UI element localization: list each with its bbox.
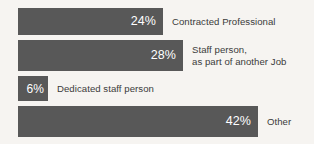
- bar-value-label: 24%: [131, 15, 163, 28]
- bar-row: 28% Staff person, as part of another Job: [0, 40, 314, 71]
- bar-row: 6% Dedicated staff person: [0, 76, 314, 101]
- bar-category-label: Other: [258, 116, 291, 127]
- bar-segment-dedicated-staff-person: 6%: [18, 76, 48, 101]
- bar-category-label: Staff person, as part of another Job: [183, 44, 286, 66]
- bar-category-label: Contracted Professional: [163, 16, 276, 27]
- bar-category-label: Dedicated staff person: [48, 83, 154, 94]
- bar-chart: 24% Contracted Professional 28% Staff pe…: [0, 0, 314, 144]
- bar-row: 42% Other: [0, 106, 314, 137]
- bar-value-label: 42%: [226, 115, 258, 128]
- bar-row: 24% Contracted Professional: [0, 8, 314, 35]
- bar-segment-staff-person-part-of-another-job: 28%: [18, 40, 183, 71]
- bar-value-label: 6%: [26, 83, 48, 95]
- bar-segment-contracted-professional: 24%: [18, 8, 163, 35]
- bar-segment-other: 42%: [18, 106, 258, 137]
- bar-value-label: 28%: [151, 49, 183, 62]
